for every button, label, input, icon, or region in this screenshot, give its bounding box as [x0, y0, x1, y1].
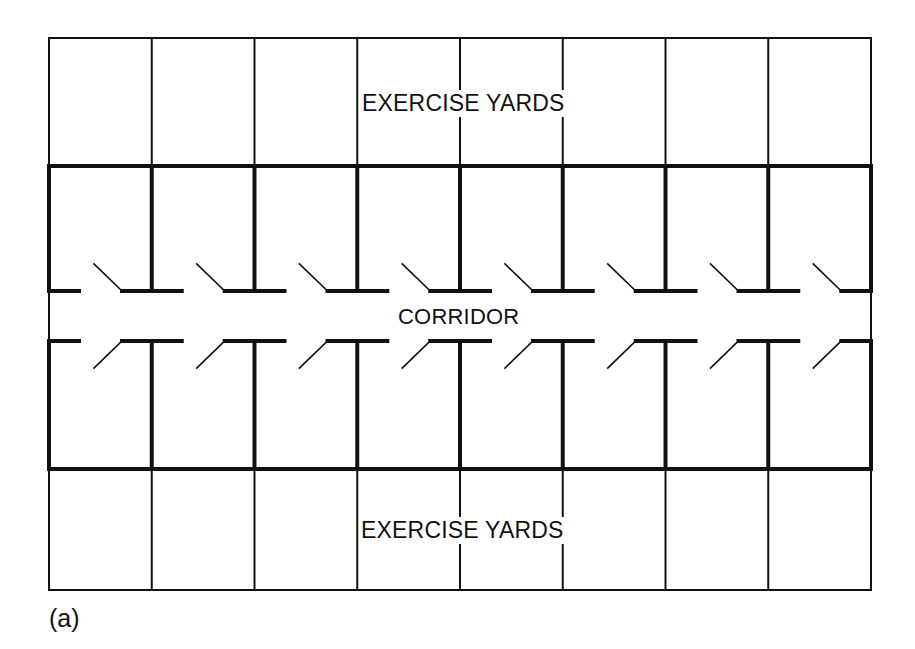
corridor-label: CORRIDOR: [396, 305, 521, 329]
door-upper: [402, 264, 430, 291]
door-upper: [197, 264, 225, 291]
door-lower: [402, 341, 430, 368]
door-lower: [94, 341, 122, 368]
door-lower: [608, 341, 636, 368]
door-lower: [711, 341, 739, 368]
door-upper: [300, 264, 328, 291]
door-lower: [197, 341, 225, 368]
door-lower: [300, 341, 328, 368]
door-lower: [813, 341, 841, 368]
exercise-yards-top-label: EXERCISE YARDS: [360, 90, 567, 117]
figure-caption: (a): [49, 604, 80, 633]
door-upper: [711, 264, 739, 291]
door-upper: [94, 264, 122, 291]
door-upper: [505, 264, 533, 291]
door-upper: [608, 264, 636, 291]
door-lower: [505, 341, 533, 368]
cell-row-upper: [49, 166, 871, 291]
door-upper: [813, 264, 841, 291]
cell-row-lower: [49, 341, 871, 469]
exercise-yards-bottom-label: EXERCISE YARDS: [359, 517, 566, 544]
